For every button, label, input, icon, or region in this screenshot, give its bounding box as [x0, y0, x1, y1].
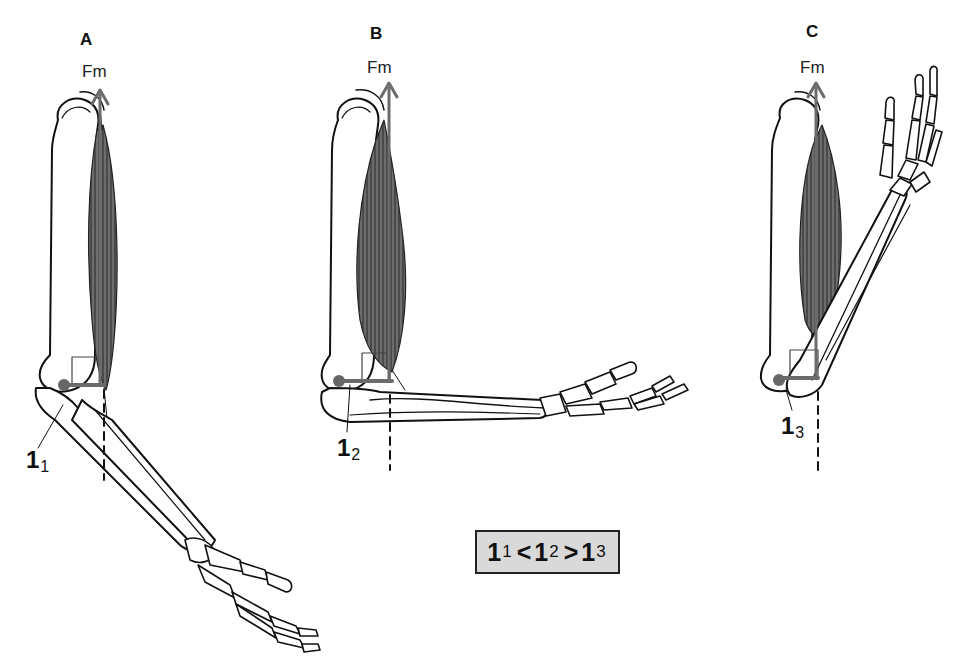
lever-subscript: 3	[795, 424, 804, 441]
lever-symbol: 1	[26, 446, 39, 473]
formula-subscript: 3	[596, 542, 605, 562]
forearm-b	[321, 388, 548, 422]
joint-axis-c	[773, 374, 785, 386]
hand-c	[880, 66, 942, 196]
force-label-b: Fm	[367, 58, 392, 78]
formula-operator: <	[517, 538, 532, 567]
force-label-a: Fm	[82, 62, 107, 82]
panel-label-a: A	[80, 30, 92, 50]
hand-b	[540, 362, 688, 416]
joint-axis-b	[333, 375, 345, 387]
lever-subscript: 2	[351, 446, 360, 463]
lever-symbol: 1	[781, 412, 794, 439]
lever-arm-label-b: 12	[337, 436, 360, 463]
formula-operator: >	[564, 538, 579, 567]
panel-label-c: C	[806, 22, 818, 42]
force-label-c: Fm	[800, 58, 825, 78]
lever-symbol: 1	[337, 434, 350, 461]
lever-arm-label-c: 13	[781, 414, 804, 441]
formula-term: 1	[534, 538, 548, 567]
hand-a	[185, 538, 320, 652]
joint-axis-a	[58, 379, 70, 391]
panel-c-drawing	[761, 66, 942, 470]
panel-a-drawing	[36, 90, 320, 652]
lever-arm-label-a: 11	[26, 448, 49, 475]
formula-subscript: 2	[549, 542, 558, 562]
formula-subscript: 1	[502, 542, 511, 562]
panel-b-drawing	[321, 83, 688, 470]
panel-label-b: B	[370, 24, 382, 44]
moment-arm-comparison-formula: 11 < 12 > 13	[475, 530, 620, 574]
formula-term: 1	[581, 538, 595, 567]
lever-subscript: 1	[40, 458, 49, 475]
formula-term: 1	[487, 538, 501, 567]
